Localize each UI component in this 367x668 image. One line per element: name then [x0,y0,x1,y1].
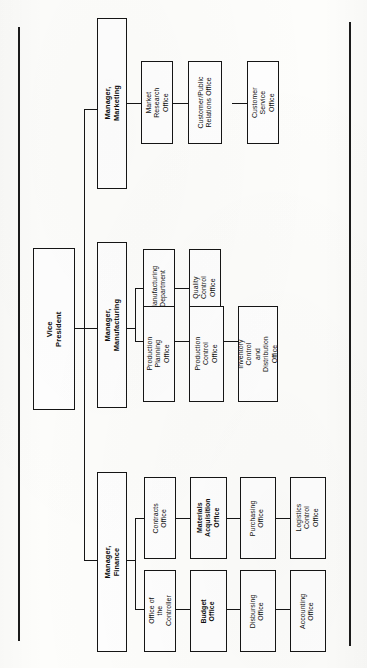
connector-fin-row1-chain-1 [176,518,190,519]
connector-manufacturing-subspine [135,288,136,342]
node-label: Office of the Controller [147,596,172,627]
node-purchasing-office[interactable]: Purchasing Office [240,477,276,559]
connector-spine-marketing [84,109,97,110]
connector-marketing-chain-1 [173,103,188,104]
node-accounting-office[interactable]: Accounting Office [290,570,326,652]
node-production-planning-office[interactable]: Production Planning Office [143,306,175,402]
node-label: Contracts Office [152,503,169,533]
node-manager-manufacturing[interactable]: Manager, Manufacturing [97,242,127,408]
node-label: Materials Acquisition Office [196,499,221,538]
connector-finance-subspine [135,518,136,610]
connector-manufacturing-row2 [135,341,143,342]
node-production-control-office[interactable]: Production Control Office [189,306,224,402]
node-label: Budget Office [200,594,217,629]
connector-main-spine [84,109,85,561]
node-manager-finance[interactable]: Manager, Finance [97,472,127,652]
node-label: Manager, Marketing [103,86,121,122]
connector-mfg-row2-chain-1 [175,341,189,342]
node-label: Quality Control Office [192,273,217,303]
connector-fin-row2-chain-1 [176,609,190,610]
connector-fin-row1-chain-3 [276,518,290,519]
node-label: Production Control Office [194,337,219,371]
node-label: Accounting Office [300,593,317,628]
node-label: Disbursing Office [250,594,267,628]
connector-fin-row2-chain-2 [227,609,240,610]
node-vice-president[interactable]: Vice President [33,248,75,410]
node-label: Market Research Office [144,87,169,117]
connector-finance-row1 [135,518,144,519]
node-label: Inventory Control and Distribution Offic… [238,335,278,373]
connector-fin-row1-chain-2 [227,518,240,519]
connector-fin-row2-chain-3 [276,609,290,610]
org-chart: Vice President Manager, Marketing Market… [0,0,367,668]
node-customer-public-relations-office[interactable]: Customer/Public Relations Office [188,61,222,144]
connector-marketing-chain-2 [232,103,247,104]
connector-finance-row2 [135,609,144,610]
node-manager-marketing[interactable]: Manager, Marketing [97,18,127,189]
connector-manufacturing-row1 [135,288,143,289]
node-customer-service-office[interactable]: Customer Service Office [247,61,279,144]
node-label: Production Planning Office [146,337,171,371]
node-materials-acquisition-office[interactable]: Materials Acquisition Office [190,477,227,559]
node-contracts-office[interactable]: Contracts Office [144,477,176,559]
node-office-of-the-controller[interactable]: Office of the Controller [144,570,176,652]
node-label: Vice President [45,309,64,349]
node-label: Logistics Control Office [295,504,320,532]
node-disbursing-office[interactable]: Disbursing Office [240,570,276,652]
node-logistics-control-office[interactable]: Logistics Control Office [290,477,326,559]
node-label: Customer/Public Relations Office [197,76,214,128]
node-label: Purchasing Office [250,500,267,535]
node-budget-office[interactable]: Budget Office [190,570,227,652]
connector-marketing-out [127,103,141,104]
connector-mfg-row2-chain-2 [224,341,238,342]
node-label: Manager, Finance [103,546,121,579]
connector-spine-manufacturing [84,328,97,329]
node-label: Manufacturing Department [151,266,168,311]
node-market-research-office[interactable]: Market Research Office [141,61,173,144]
connector-spine-finance [84,560,97,561]
node-label: Manager, Manufacturing [103,299,121,351]
node-inventory-control-and-distribution-office[interactable]: Inventory Control and Distribution Offic… [238,306,278,402]
node-label: Customer Service Office [250,87,275,118]
connector-mfg-row1-chain-1 [175,288,189,289]
